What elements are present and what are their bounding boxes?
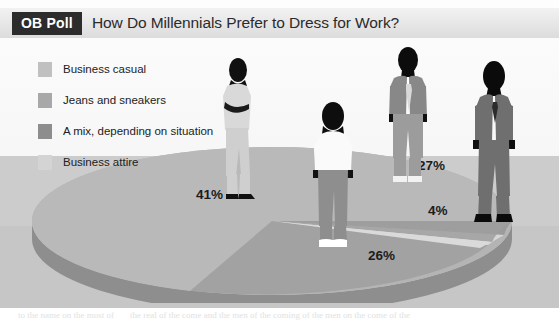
- legend-item[interactable]: Jeans and sneakers: [38, 87, 213, 113]
- ghost-line: the real of the come and the men of the …: [130, 310, 410, 320]
- legend-item-label: Jeans and sneakers: [63, 94, 166, 106]
- ghost-line: to the name on the most of: [18, 310, 114, 320]
- swatch-mix: [38, 124, 52, 139]
- swatch-business-attire: [38, 155, 52, 170]
- figure-mix-man: [372, 46, 444, 186]
- figure-jeans-sneakers-woman: [299, 100, 367, 258]
- label-pct-jeans-sneakers: 26%: [368, 248, 395, 263]
- legend-item-label: A mix, depending on situation: [63, 125, 213, 137]
- legend-item-label: Business attire: [63, 156, 138, 168]
- chart-canvas: Business casual Jeans and sneakers A mix…: [0, 38, 559, 308]
- swatch-business-casual: [38, 62, 52, 77]
- figure-business-casual-woman: [205, 56, 267, 214]
- legend-item[interactable]: Business attire: [38, 149, 213, 175]
- ob-poll-badge: OB Poll: [12, 12, 82, 35]
- legend-item[interactable]: Business casual: [38, 56, 213, 82]
- figure-business-attire-man: [460, 60, 528, 232]
- legend-item-label: Business casual: [63, 63, 146, 75]
- swatch-jeans-sneakers: [38, 93, 52, 108]
- page-title: How Do Millennials Prefer to Dress for W…: [92, 14, 399, 32]
- label-pct-business-attire: 4%: [428, 203, 448, 218]
- bottom-caption-strip: to the name on the most of the real of t…: [0, 308, 559, 326]
- legend: Business casual Jeans and sneakers A mix…: [38, 56, 213, 180]
- poll-header: OB Poll How Do Millennials Prefer to Dre…: [0, 8, 559, 39]
- poll-infographic: are few days off, 100 bucks in my findin…: [0, 0, 559, 326]
- legend-item[interactable]: A mix, depending on situation: [38, 118, 213, 144]
